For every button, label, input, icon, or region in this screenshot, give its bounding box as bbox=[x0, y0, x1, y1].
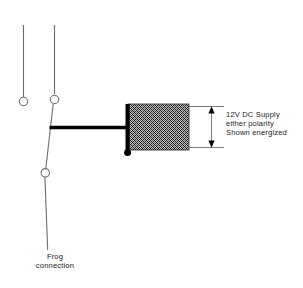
switch-blade-line bbox=[46, 104, 53, 169]
coil-terminal-dot bbox=[124, 149, 131, 156]
frog-annotation-line-2: connection bbox=[24, 261, 86, 270]
switch-blade bbox=[41, 104, 53, 177]
supply-annotation-line-1: 12V DC Supply bbox=[226, 110, 287, 119]
stock-rail-right bbox=[50, 25, 58, 104]
supply-annotation: 12V DC Supply either polarity Shown ener… bbox=[226, 110, 287, 137]
terminal-top bbox=[50, 95, 58, 103]
frog-wiring-diagram bbox=[0, 0, 303, 288]
dimension-arrow bbox=[189, 106, 224, 148]
diagram-canvas: 12V DC Supply either polarity Shown ener… bbox=[0, 0, 303, 288]
supply-annotation-line-2: either polarity bbox=[226, 119, 287, 128]
coil-block bbox=[124, 104, 189, 156]
arrowhead-down-icon bbox=[208, 140, 214, 147]
frog-annotation: Frog connection bbox=[24, 252, 86, 270]
arrowhead-up-icon bbox=[208, 106, 214, 113]
frog-annotation-line-1: Frog bbox=[24, 252, 86, 261]
stock-rail-left bbox=[19, 25, 27, 106]
coil-block-body bbox=[128, 104, 189, 150]
supply-annotation-line-3: Shown energized bbox=[226, 128, 287, 137]
frog-lead-line bbox=[45, 177, 48, 245]
terminal-left bbox=[19, 97, 27, 105]
coil-bar bbox=[126, 104, 130, 153]
terminal-bottom bbox=[41, 169, 49, 177]
frog-lead-wire bbox=[45, 177, 48, 250]
